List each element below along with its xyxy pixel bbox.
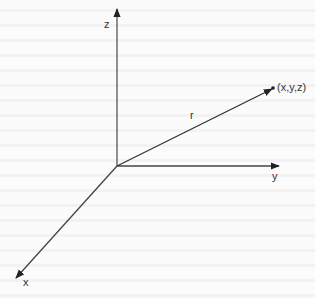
coordinate-diagram: z y x r (x,y,z) (0, 0, 315, 299)
r-vector (117, 89, 272, 166)
y-axis-label: y (272, 171, 278, 182)
z-axis-label: z (104, 19, 110, 30)
x-axis-label: x (23, 277, 29, 288)
point-label: (x,y,z) (277, 82, 306, 93)
r-vector-label: r (190, 110, 194, 121)
axes-svg (0, 0, 315, 299)
x-axis (16, 166, 117, 278)
point-marker (271, 86, 275, 90)
